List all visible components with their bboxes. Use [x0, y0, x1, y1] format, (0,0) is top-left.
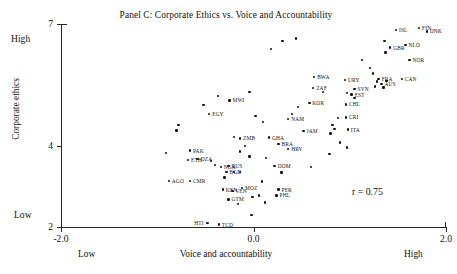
- scatter-point: [268, 136, 270, 138]
- scatter-point-label: DNK: [430, 28, 442, 34]
- scatter-point-label: HRV: [291, 146, 302, 152]
- y-axis-tick-label: 4: [31, 140, 53, 151]
- scatter-point-unlabeled: [175, 129, 177, 131]
- scatter-point: [206, 222, 208, 224]
- scatter-point: [287, 118, 289, 120]
- x-axis-title: Voice and accountability: [0, 249, 452, 259]
- scatter-point-unlabeled: [239, 150, 241, 152]
- scatter-point: [225, 171, 227, 173]
- scatter-point: [312, 87, 314, 89]
- scatter-point-unlabeled: [329, 132, 331, 134]
- scatter-point-unlabeled: [281, 40, 283, 42]
- scatter-point-label: TCD: [222, 222, 233, 228]
- scatter-point-unlabeled: [333, 128, 335, 130]
- scatter-point: [344, 79, 346, 81]
- scatter-point-unlabeled: [237, 203, 239, 205]
- scatter-point-unlabeled: [337, 117, 339, 119]
- scatter-point: [277, 143, 279, 145]
- scatter-point-unlabeled: [374, 85, 376, 87]
- scatter-point-unlabeled: [248, 91, 250, 93]
- scatter-point: [189, 149, 191, 151]
- scatter-point-unlabeled: [291, 113, 293, 115]
- scatter-point-label: ZMB: [243, 135, 255, 141]
- x-axis-tick-label: 2.0: [424, 233, 457, 244]
- scatter-point-unlabeled: [233, 136, 235, 138]
- scatter-point-unlabeled: [214, 164, 216, 166]
- scatter-point: [189, 180, 191, 182]
- y-axis-high-label: High: [11, 33, 30, 44]
- scatter-point: [220, 166, 222, 168]
- scatter-point-unlabeled: [254, 115, 256, 117]
- scatter-point: [353, 88, 355, 90]
- scatter-point-label: JAM: [307, 128, 318, 134]
- scatter-point-label: DZA: [201, 156, 213, 162]
- scatter-point-label: MOZ: [245, 185, 257, 191]
- scatter-point-label: CRI: [349, 114, 358, 120]
- scatter-point-label: CHL: [349, 101, 360, 107]
- scatter-point: [187, 159, 189, 161]
- scatter-point: [218, 223, 220, 225]
- scatter-point: [426, 30, 428, 32]
- scatter-point-label: GHA: [272, 135, 284, 141]
- scatter-point-unlabeled: [258, 194, 260, 196]
- scatter-point-unlabeled: [265, 157, 267, 159]
- scatter-point-label: KOR: [312, 100, 324, 106]
- scatter-point: [168, 180, 170, 182]
- scatter-point-unlabeled: [262, 121, 264, 123]
- scatter-point-label: PAK: [193, 148, 204, 154]
- scatter-point: [345, 103, 347, 105]
- scatter-point: [380, 83, 382, 85]
- x-axis-tick: [254, 227, 255, 232]
- scatter-point-unlabeled: [361, 59, 363, 61]
- y-axis-tick-label: 7: [31, 18, 53, 29]
- correlation-annotation: r = 0.75: [352, 186, 383, 197]
- x-axis-tick-label: 0.0: [232, 233, 276, 244]
- scatter-point-label: ITA: [351, 127, 360, 133]
- scatter-point-unlabeled: [369, 67, 371, 69]
- scatter-point: [404, 44, 406, 46]
- scatter-point: [208, 113, 210, 115]
- scatter-point-label: BWA: [317, 74, 329, 80]
- scatter-point: [377, 78, 379, 80]
- scatter-point-label: BGD: [230, 169, 242, 175]
- scatter-point: [302, 130, 304, 132]
- y-axis-tick-label: 2: [31, 221, 53, 232]
- x-axis-tick-label: -2.0: [39, 233, 83, 244]
- x-axis-tick: [61, 227, 62, 232]
- scatter-point-unlabeled: [339, 141, 341, 143]
- scatter-point: [273, 165, 275, 167]
- scatter-point: [401, 78, 403, 80]
- scatter-point-unlabeled: [223, 176, 225, 178]
- scatter-point-label: EGY: [212, 111, 224, 117]
- scatter-point-unlabeled: [346, 146, 348, 148]
- scatter-point-unlabeled: [244, 145, 246, 147]
- scatter-point: [287, 148, 289, 150]
- scatter-point: [408, 59, 410, 61]
- scatter-point-unlabeled: [177, 124, 179, 126]
- scatter-point: [395, 29, 397, 31]
- scatter-point: [389, 46, 391, 48]
- scatter-point-unlabeled: [251, 196, 253, 198]
- scatter-point-unlabeled: [250, 214, 252, 216]
- scatter-point-unlabeled: [322, 91, 324, 93]
- scatter-point-label: ZAF: [316, 85, 327, 91]
- scatter-point-unlabeled: [217, 95, 219, 97]
- scatter-point-label: CAN: [405, 76, 417, 82]
- scatter-point-label: CMR: [193, 178, 205, 184]
- scatter-point-unlabeled: [372, 72, 374, 74]
- scatter-point: [277, 188, 279, 190]
- scatter-point-label: AUS: [385, 81, 396, 87]
- scatter-point: [347, 128, 349, 130]
- scatter-point-unlabeled: [261, 180, 263, 182]
- scatter-point-unlabeled: [295, 37, 297, 39]
- scatter-point-unlabeled: [383, 40, 385, 42]
- scatter-point: [228, 99, 230, 101]
- y-axis-title: Corporate ethics: [11, 49, 21, 169]
- scatter-point: [239, 137, 241, 139]
- page-title: Panel C: Corporate Ethics vs. Voice and …: [0, 10, 452, 20]
- y-axis-tick: [57, 146, 62, 147]
- scatter-point: [227, 198, 229, 200]
- scatter-point-unlabeled: [328, 153, 330, 155]
- scatter-point-unlabeled: [202, 104, 204, 106]
